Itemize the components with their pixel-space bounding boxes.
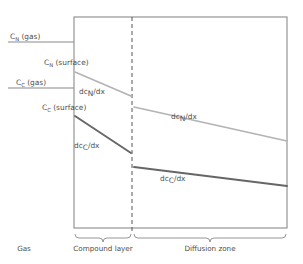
concentration-profile-diagram: CN (gas) CN (surface) CC (gas) CC (surfa… [0,0,303,264]
compound-layer-brace [75,234,131,242]
zone-label-diffusion-zone: Diffusion zone [184,244,236,253]
cn-gas-label: CN (gas) [10,32,40,42]
nitrogen-gradient-diffusion-label: dcN/dx [171,112,197,123]
zone-label-compound-layer: Compound layer [73,244,132,253]
carbon-gradient-diffusion-label: dcC/dx [160,174,186,185]
carbon-gradient-compound-label: dcC/dx [74,141,100,152]
figure-root: CN (gas) CN (surface) CC (gas) CC (surfa… [0,0,303,264]
cc-gas-label: CC (gas) [16,78,46,88]
nitrogen-gradient-compound-label: dcN/dx [79,87,105,98]
nitrogen-gradient-diffusion-line [134,107,287,141]
carbon-gradient-diffusion-line [134,167,287,186]
cn-surface-label: CN (surface) [44,58,89,68]
cc-surface-label: CC (surface) [42,103,86,113]
zone-label-gas: Gas [17,244,31,253]
diffusion-zone-brace [134,234,286,242]
